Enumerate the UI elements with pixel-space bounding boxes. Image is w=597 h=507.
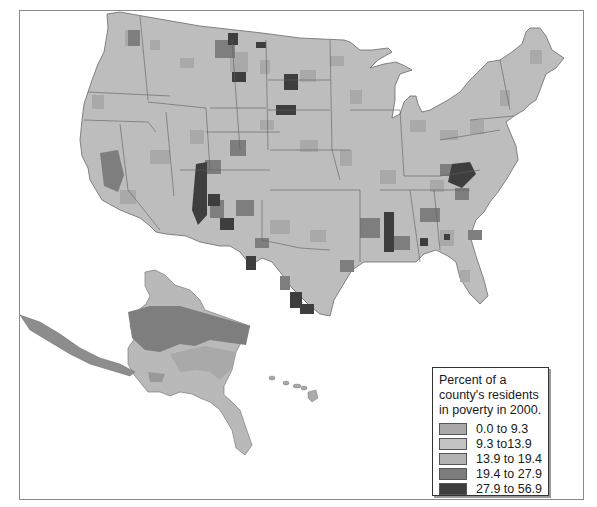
- legend-swatch: [439, 423, 467, 435]
- legend-item: 27.9 to 56.9: [439, 481, 543, 496]
- hawaii: [269, 376, 318, 402]
- legend-swatch: [439, 453, 467, 465]
- legend-swatch: [439, 438, 467, 450]
- legend-label: 19.4 to 27.9: [476, 467, 542, 481]
- legend-label: 9.3 to13.9: [476, 437, 532, 451]
- legend: Percent of a county's residents in pover…: [432, 367, 549, 496]
- legend-item: 19.4 to 27.9: [439, 466, 543, 481]
- legend-label: 27.9 to 56.9: [476, 482, 542, 496]
- legend-label: 13.9 to 19.4: [476, 452, 542, 466]
- legend-item: 9.3 to13.9: [439, 436, 543, 451]
- alaska: [20, 270, 252, 455]
- legend-title: Percent of a county's residents in pover…: [439, 373, 543, 418]
- legend-item: 13.9 to 19.4: [439, 451, 543, 466]
- legend-swatch: [439, 483, 467, 495]
- legend-item: 0.0 to 9.3: [439, 421, 543, 436]
- legend-swatch: [439, 468, 467, 480]
- legend-label: 0.0 to 9.3: [476, 422, 528, 436]
